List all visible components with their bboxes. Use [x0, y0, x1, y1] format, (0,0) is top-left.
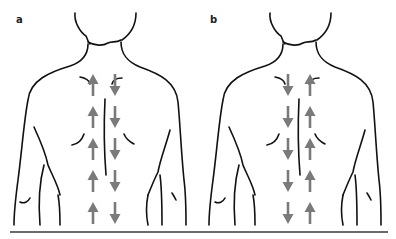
- arrow-down-icon: [283, 170, 294, 192]
- back-illustration-a: [0, 0, 198, 232]
- arrow-up-icon: [88, 202, 99, 224]
- panel-b: b: [198, 0, 396, 232]
- arrow-down-icon: [110, 138, 121, 160]
- arrow-up-icon: [305, 106, 316, 128]
- arrow-down-icon: [110, 74, 121, 96]
- arrow-down-icon: [110, 170, 121, 192]
- arrow-down-icon: [283, 74, 294, 96]
- baseline-rule: [10, 231, 388, 233]
- arrows-down-column: [110, 74, 121, 224]
- arrow-up-icon: [305, 202, 316, 224]
- arrows-up-column: [305, 74, 316, 224]
- arrows-down-column: [283, 74, 294, 224]
- arrow-up-icon: [305, 74, 316, 96]
- arrow-up-icon: [88, 74, 99, 96]
- panel-a: a: [0, 0, 198, 232]
- arrow-down-icon: [110, 106, 121, 128]
- arrow-up-icon: [88, 138, 99, 160]
- back-illustration-b: [198, 0, 396, 232]
- arrow-down-icon: [283, 106, 294, 128]
- arrow-up-icon: [88, 106, 99, 128]
- arrow-down-icon: [283, 202, 294, 224]
- arrow-up-icon: [305, 138, 316, 160]
- arrow-down-icon: [110, 202, 121, 224]
- arrow-up-icon: [305, 170, 316, 192]
- arrows-up-column: [88, 74, 99, 224]
- arrow-down-icon: [283, 138, 294, 160]
- arrow-up-icon: [88, 170, 99, 192]
